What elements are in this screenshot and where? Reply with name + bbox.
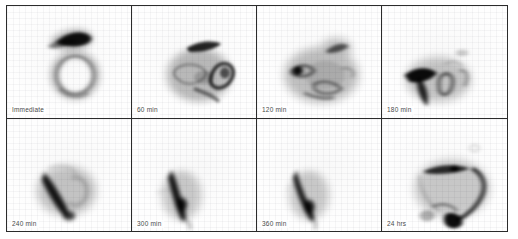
scan-image-180min	[382, 6, 507, 118]
scan-image-immediate	[7, 6, 131, 118]
panel-label-240min: 240 min	[11, 220, 39, 229]
scan-panel-300min[interactable]: 300 min	[132, 119, 257, 232]
scintigraphy-figure: Immediate	[0, 0, 518, 239]
scan-image-240min	[7, 119, 131, 232]
panel-label-60min: 60 min	[136, 106, 160, 115]
scan-panel-180min[interactable]: 180 min	[382, 6, 507, 119]
panel-label-180min: 180 min	[386, 106, 414, 115]
panel-label-300min: 300 min	[136, 220, 164, 229]
scan-image-60min	[132, 6, 256, 118]
scan-image-24hrs	[382, 119, 507, 232]
panel-label-120min: 120 min	[261, 106, 289, 115]
scan-panel-immediate[interactable]: Immediate	[7, 6, 132, 119]
scan-image-360min	[257, 119, 381, 232]
scan-image-300min	[132, 119, 256, 232]
scan-panel-240min[interactable]: 240 min	[7, 119, 132, 232]
panel-label-immediate: Immediate	[11, 106, 46, 115]
scan-image-120min	[257, 6, 381, 118]
scan-panel-60min[interactable]: 60 min	[132, 6, 257, 119]
panel-label-24hrs: 24 hrs	[386, 220, 408, 229]
panel-label-360min: 360 min	[261, 220, 289, 229]
panel-montage-grid: Immediate	[6, 5, 508, 232]
scan-panel-24hrs[interactable]: 24 hrs	[382, 119, 507, 232]
scan-panel-360min[interactable]: 360 min	[257, 119, 382, 232]
scan-panel-120min[interactable]: 120 min	[257, 6, 382, 119]
